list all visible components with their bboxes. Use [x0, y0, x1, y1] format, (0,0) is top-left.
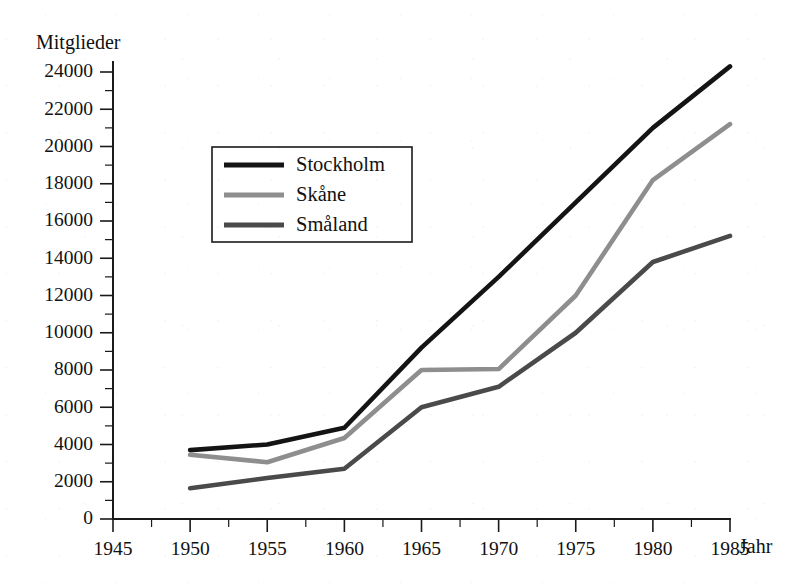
x-tick-label: 1980	[633, 538, 672, 559]
legend-label-skåne: Skåne	[296, 183, 346, 205]
x-tick-label: 1945	[94, 538, 133, 559]
y-tick-label: 4000	[54, 433, 93, 454]
y-axis-title-group: Mitglieder	[36, 31, 121, 54]
chart-container: Mitglieder Jahr 020004000600080001000012…	[0, 0, 797, 586]
y-tick-label: 22000	[44, 98, 93, 119]
series-group	[190, 66, 730, 488]
y-tick-label: 14000	[44, 247, 93, 268]
y-tick-label: 20000	[44, 135, 93, 156]
y-tick-label: 24000	[44, 60, 93, 81]
legend-label-stockholm: Stockholm	[296, 153, 385, 175]
x-tick-label: 1950	[171, 538, 210, 559]
y-tick-label: 12000	[44, 284, 93, 305]
y-tick-label: 8000	[54, 358, 93, 379]
y-tick-label: 16000	[44, 209, 93, 230]
x-axis-major-ticks	[113, 519, 730, 532]
y-tick-label: 18000	[44, 172, 93, 193]
y-axis-tick-labels: 0200040006000800010000120001400016000180…	[44, 60, 93, 528]
y-axis-major-ticks	[100, 72, 113, 519]
series-line-småland	[190, 236, 730, 488]
chart-legend: StockholmSkåneSmåland	[212, 147, 412, 242]
line-chart: Mitglieder Jahr 020004000600080001000012…	[0, 0, 797, 586]
y-tick-label: 0	[83, 507, 93, 528]
y-tick-label: 2000	[54, 470, 93, 491]
x-tick-label: 1985	[711, 538, 750, 559]
x-tick-label: 1955	[248, 538, 287, 559]
x-tick-label: 1960	[325, 538, 364, 559]
x-tick-label: 1975	[556, 538, 595, 559]
x-tick-label: 1965	[402, 538, 441, 559]
series-line-stockholm	[190, 66, 730, 450]
legend-label-småland: Småland	[296, 213, 368, 235]
y-axis-title: Mitglieder	[36, 31, 121, 54]
x-tick-label: 1970	[479, 538, 518, 559]
y-tick-label: 6000	[54, 396, 93, 417]
x-axis-tick-labels: 194519501955196019651970197519801985	[94, 538, 750, 559]
y-tick-label: 10000	[44, 321, 93, 342]
